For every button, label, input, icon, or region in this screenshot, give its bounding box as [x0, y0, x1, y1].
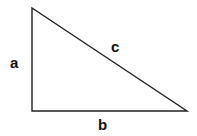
right-triangle [32, 8, 187, 111]
label-a: a [10, 54, 19, 71]
label-b: b [98, 116, 107, 133]
label-c: c [111, 38, 119, 55]
triangle-diagram: a b c [0, 0, 197, 136]
